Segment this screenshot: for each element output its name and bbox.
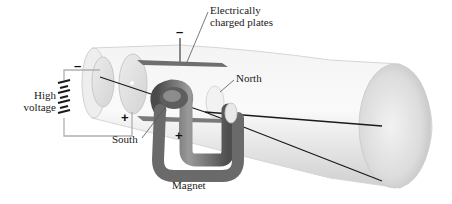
anode-positive-sign: +	[121, 111, 129, 124]
label-magnet: Magnet	[172, 179, 206, 191]
battery-icon	[58, 80, 70, 113]
label-electrically-charged-plates: Electrically charged plates	[210, 4, 273, 28]
bottom-plate-positive-sign: +	[175, 129, 183, 142]
cathode-negative-sign: –	[74, 59, 81, 72]
cathode-ray-tube-diagram: Electrically charged plates North South …	[0, 0, 452, 204]
top-plate-negative-sign: –	[176, 25, 183, 38]
label-plates-line1: Electrically	[210, 4, 273, 16]
label-voltage: voltage	[20, 101, 56, 113]
label-north: North	[236, 72, 262, 84]
label-high-voltage: High voltage	[26, 89, 56, 113]
cathode-disk	[92, 57, 114, 107]
label-plates-line2: charged plates	[210, 16, 273, 28]
label-high: High	[26, 89, 56, 101]
diagram-artwork	[0, 0, 452, 204]
label-south: South	[112, 133, 138, 145]
